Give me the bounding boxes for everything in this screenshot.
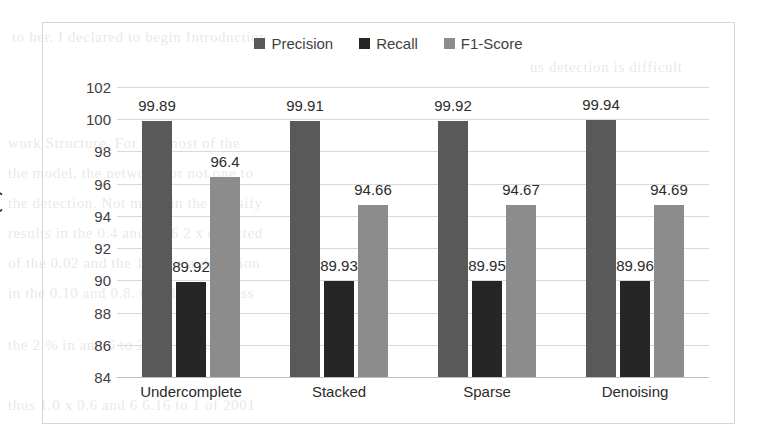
- bar-precision[interactable]: [586, 120, 616, 377]
- x-axis-label: Sparse: [463, 383, 511, 400]
- bars-layer: 99.8989.9296.499.9189.9394.6699.9289.959…: [117, 87, 709, 377]
- bar-recall[interactable]: [472, 281, 502, 377]
- x-axis-label: Denoising: [602, 383, 669, 400]
- y-axis-tick-label: 88: [94, 304, 111, 321]
- y-axis-tick-label: 86: [94, 336, 111, 353]
- bar-value-label: 96.4: [210, 153, 239, 170]
- bar-recall[interactable]: [324, 281, 354, 377]
- bar-precision[interactable]: [438, 121, 468, 377]
- bar-f1-score[interactable]: [210, 177, 240, 377]
- x-axis-label: Stacked: [312, 383, 366, 400]
- plot-area: 8486889092949698100102 99.8989.9296.499.…: [117, 87, 709, 377]
- legend-item-f1-score: F1-Score: [444, 35, 523, 52]
- bar-precision[interactable]: [290, 121, 320, 377]
- bar-recall[interactable]: [176, 282, 206, 377]
- y-axis-tick-label: 94: [94, 207, 111, 224]
- legend-swatch-recall: [359, 38, 370, 49]
- legend-swatch-precision: [254, 38, 265, 49]
- y-axis-tick-label: 100: [86, 111, 111, 128]
- legend-label-f1-score: F1-Score: [461, 35, 523, 52]
- bar-value-label: 94.67: [502, 181, 540, 198]
- bar-value-label: 89.93: [320, 257, 358, 274]
- bar-value-label: 89.96: [616, 257, 654, 274]
- gridline: [117, 377, 709, 378]
- legend-swatch-f1-score: [444, 38, 455, 49]
- bar-group: 99.9489.9694.69: [561, 87, 709, 377]
- bar-value-label: 94.69: [650, 181, 688, 198]
- bar-group: 99.9189.9394.66: [265, 87, 413, 377]
- bar-value-label: 89.95: [468, 257, 506, 274]
- legend-item-precision: Precision: [254, 35, 333, 52]
- y-axis-tick-label: 96: [94, 175, 111, 192]
- bar-value-label: 99.89: [138, 97, 176, 114]
- y-axis-title: Ratio (%): [0, 191, 2, 256]
- y-axis-tick-label: 92: [94, 240, 111, 257]
- bar-f1-score[interactable]: [654, 205, 684, 377]
- legend-label-precision: Precision: [271, 35, 333, 52]
- bar-value-label: 99.94: [582, 96, 620, 113]
- bar-f1-score[interactable]: [358, 205, 388, 377]
- bar-precision[interactable]: [142, 121, 172, 377]
- bar-value-label: 94.66: [354, 181, 392, 198]
- y-axis-ticks: 8486889092949698100102: [71, 87, 111, 377]
- y-axis-tick-label: 102: [86, 79, 111, 96]
- bar-recall[interactable]: [620, 281, 650, 377]
- chart-legend: Precision Recall F1-Score: [43, 35, 734, 52]
- legend-label-recall: Recall: [376, 35, 418, 52]
- legend-item-recall: Recall: [359, 35, 418, 52]
- bar-value-label: 99.91: [286, 97, 324, 114]
- x-axis-labels: UndercompleteStackedSparseDenoising: [117, 383, 709, 409]
- bar-chart-figure: Precision Recall F1-Score Ratio (%) 8486…: [42, 22, 735, 424]
- bar-group: 99.9289.9594.67: [413, 87, 561, 377]
- x-axis-label: Undercomplete: [140, 383, 242, 400]
- y-axis-tick-label: 98: [94, 143, 111, 160]
- bar-f1-score[interactable]: [506, 205, 536, 377]
- y-axis-tick-label: 90: [94, 272, 111, 289]
- bar-value-label: 89.92: [172, 258, 210, 275]
- bar-value-label: 99.92: [434, 97, 472, 114]
- y-axis-tick-label: 84: [94, 369, 111, 386]
- bar-group: 99.8989.9296.4: [117, 87, 265, 377]
